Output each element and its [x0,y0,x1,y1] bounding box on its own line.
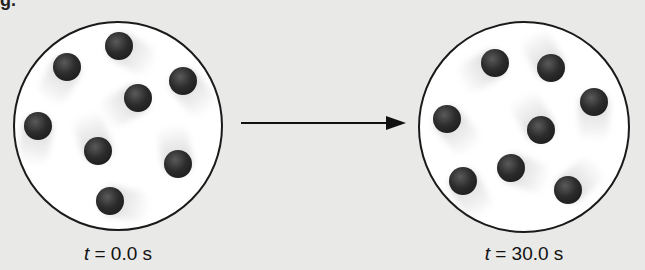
gas-molecule [124,84,152,112]
time-arrow-shaft [241,122,389,124]
gas-molecule [96,187,124,215]
gas-molecule [164,150,192,178]
gas-molecule [449,167,477,195]
gas-molecule [84,137,112,165]
caption-fragment: g. [0,0,16,11]
gas-molecule [537,54,565,82]
gas-molecule [24,112,52,140]
gas-molecule [527,116,555,144]
gas-molecule [554,176,582,204]
time-label-initial: t = 0.0 s [84,243,152,265]
gas-molecule [53,53,81,81]
arrow-right-icon [386,116,406,130]
gas-molecule [433,105,461,133]
gas-molecule [481,49,509,77]
gas-molecule [105,32,133,60]
gas-molecule [169,67,197,95]
gas-diffusion-diagram: g. t = 0.0 s t = 30.0 s [0,0,645,270]
gas-molecule [497,154,525,182]
time-label-final: t = 30.0 s [485,243,564,265]
gas-molecule [580,88,608,116]
